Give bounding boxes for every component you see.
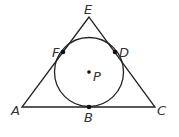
point-d — [113, 50, 118, 55]
incircle-diagram: E F D P A B C — [0, 0, 179, 137]
label-f: F — [52, 45, 60, 60]
label-b: B — [84, 110, 93, 125]
point-f — [61, 50, 66, 55]
label-e: E — [84, 2, 93, 17]
label-p: P — [93, 69, 101, 84]
triangle-ace — [22, 17, 155, 107]
point-b — [87, 105, 92, 110]
point-p — [87, 70, 91, 74]
label-c: C — [157, 103, 167, 118]
label-d: D — [119, 45, 129, 60]
label-a: A — [10, 103, 20, 118]
